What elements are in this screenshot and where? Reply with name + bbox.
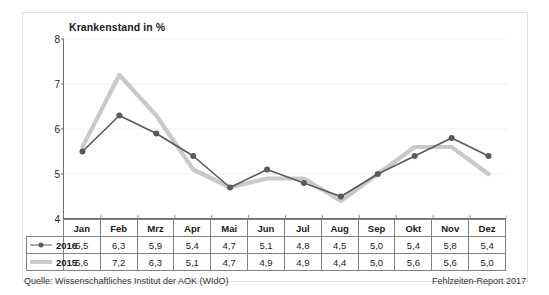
table-cell: 5,1 <box>174 254 211 271</box>
table-column-header: Mrz <box>137 220 174 237</box>
y-axis-tick-label: 5 <box>54 169 60 180</box>
table-cell: 7,2 <box>100 254 137 271</box>
table-cell: 5,4 <box>395 237 432 254</box>
table-cell: 5,4 <box>469 237 506 254</box>
footer-source: Quelle: Wissenschaftliches Institut der … <box>24 276 229 286</box>
table-column-header: Jul <box>284 220 321 237</box>
table-cell: 5,8 <box>432 237 469 254</box>
table-column-header: Jun <box>248 220 285 237</box>
plot-area: 45678 <box>63 39 506 219</box>
table-column-header: Okt <box>395 220 432 237</box>
table-cell: 5,6 <box>432 254 469 271</box>
table-column-header: Dez <box>469 220 506 237</box>
chart-title: Krankenstand in % <box>69 21 165 33</box>
table-cell: 6,3 <box>137 254 174 271</box>
y-axis-tick-mark <box>61 39 64 40</box>
footer: Quelle: Wissenschaftliches Institut der … <box>22 276 528 286</box>
y-axis-tick-mark <box>61 174 64 175</box>
figure-container: Krankenstand in % 45678 JanFebMrzAprMaiJ… <box>22 12 528 282</box>
table-cell: 5,0 <box>358 237 395 254</box>
legend-series-name: 2016 <box>56 240 77 251</box>
footer-report: Fehlzeiten-Report 2017 <box>432 276 526 286</box>
table-cell: 4,8 <box>284 237 321 254</box>
table-cell: 5,0 <box>469 254 506 271</box>
table-cell: 5,1 <box>248 237 285 254</box>
table-cell: 4,9 <box>284 254 321 271</box>
legend-series-name: 2015 <box>56 257 77 268</box>
line-chart-svg <box>64 39 507 219</box>
table-cell: 5,4 <box>174 237 211 254</box>
y-axis-tick-label: 6 <box>54 124 60 135</box>
legend-item-2015: 2015 <box>27 254 64 271</box>
table-cell: 5,9 <box>137 237 174 254</box>
legend-swatch-icon <box>30 258 52 267</box>
table-cell: 6,3 <box>100 237 137 254</box>
table-column-header: Aug <box>321 220 358 237</box>
legend-swatch-icon <box>30 241 52 250</box>
y-axis-tick-label: 7 <box>54 79 60 90</box>
table-cell: 5,0 <box>358 254 395 271</box>
table-column-header: Mai <box>211 220 248 237</box>
table-column-header: Nov <box>432 220 469 237</box>
table-cell: 4,7 <box>211 254 248 271</box>
table-cell: 4,7 <box>211 237 248 254</box>
table-cell: 4,4 <box>321 254 358 271</box>
table-cell: 5,6 <box>395 254 432 271</box>
table-cell: 4,9 <box>248 254 285 271</box>
table-header-row: JanFebMrzAprMaiJunJulAugSepOktNovDez <box>27 220 506 237</box>
table-column-header: Apr <box>174 220 211 237</box>
y-axis-tick-label: 8 <box>54 34 60 45</box>
table-cell: 4,5 <box>321 237 358 254</box>
table-body: 20165,56,35,95,44,75,14,84,55,05,45,85,4… <box>27 237 506 271</box>
table-column-header: Feb <box>100 220 137 237</box>
legend-corner-cell <box>27 220 64 237</box>
table-column-header: Jan <box>63 220 100 237</box>
data-table: JanFebMrzAprMaiJunJulAugSepOktNovDez 201… <box>26 219 506 271</box>
y-axis-tick-mark <box>61 84 64 85</box>
table-row: 20165,56,35,95,44,75,14,84,55,05,45,85,4 <box>27 237 506 254</box>
table-row: 20155,67,26,35,14,74,94,94,45,05,65,65,0 <box>27 254 506 271</box>
table-column-header: Sep <box>358 220 395 237</box>
y-axis-tick-mark <box>61 129 64 130</box>
legend-item-2016: 2016 <box>27 237 64 254</box>
